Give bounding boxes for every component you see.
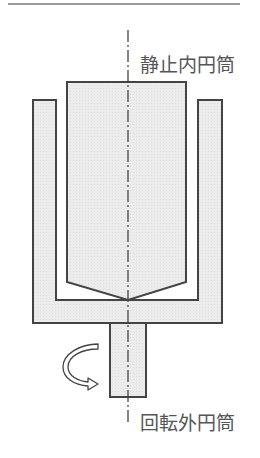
inner-stationary-cylinder <box>67 82 186 300</box>
rotation-arrow-icon <box>63 344 98 390</box>
inner-cylinder-label: 静止内円筒 <box>140 50 235 77</box>
outer-cylinder-label: 回転外円筒 <box>140 408 235 435</box>
